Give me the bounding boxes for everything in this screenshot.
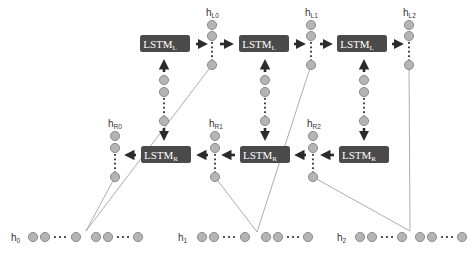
svg-text:LSTMR: LSTMR (243, 149, 277, 163)
node-hR2 (308, 131, 317, 140)
lstm-right-box-0: LSTMR (141, 146, 191, 163)
nodes (28, 20, 466, 241)
node-hR1 (210, 131, 219, 140)
label-hR2: hR2 (307, 118, 321, 130)
node-hL1 (306, 20, 315, 29)
label-h2: h2 (337, 232, 347, 244)
label-h0: h0 (11, 232, 21, 244)
line-h2-to-hL2 (409, 65, 410, 231)
lstm-left-box-2: LSTML (337, 35, 387, 52)
line-h2-to-hR2 (313, 177, 410, 231)
lstm-right-row: LSTMR LSTMR LSTMR (141, 146, 389, 163)
lstm-right-box-1: LSTMR (240, 146, 290, 163)
label-hR0: hR0 (108, 118, 122, 130)
svg-text:LSTML: LSTML (143, 38, 177, 52)
input-ellipsis (54, 236, 453, 238)
line-h1-to-hR1 (215, 177, 257, 232)
lstm-left-box-1: LSTML (239, 35, 289, 52)
label-h1: h1 (178, 232, 188, 244)
hidden-labels: hL0 hL1 hL2 hR0 hR1 hR2 (108, 7, 416, 130)
svg-text:LSTML: LSTML (340, 38, 374, 52)
svg-text:LSTMR: LSTMR (144, 149, 178, 163)
lstm-left-row: LSTML LSTML LSTML (140, 35, 387, 52)
lstm-right-box-2: LSTMR (339, 146, 389, 163)
line-h0-to-hR0 (86, 177, 115, 231)
bilstm-diagram: LSTML LSTML LSTML LSTMR LSTMR LSTMR hL0 … (0, 0, 476, 253)
label-hL0: hL0 (206, 7, 219, 19)
node-hR0 (110, 131, 119, 140)
node-hL0 (207, 20, 216, 29)
label-hL2: hL2 (403, 7, 416, 19)
label-hL1: hL1 (305, 7, 318, 19)
lstm-left-box-0: LSTML (140, 35, 190, 52)
vertical-arrows (164, 63, 364, 137)
svg-text:LSTMR: LSTMR (342, 149, 376, 163)
diagram-svg: LSTML LSTML LSTML LSTMR LSTMR LSTMR hL0 … (0, 0, 476, 253)
input-labels: h0 h1 h2 (11, 232, 347, 244)
svg-text:LSTML: LSTML (242, 38, 276, 52)
node-hL2 (404, 20, 413, 29)
label-hR1: hR1 (209, 118, 223, 130)
